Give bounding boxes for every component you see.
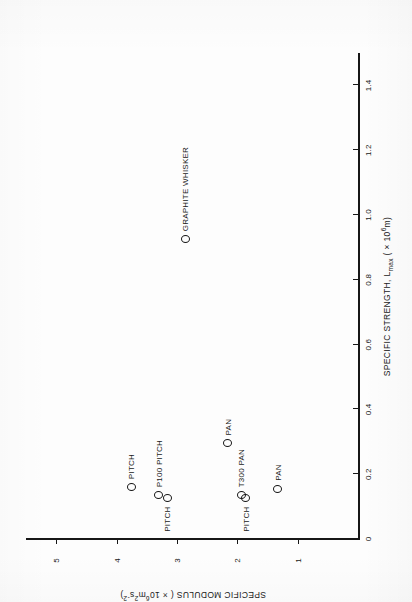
figure-root: 00.20.40.60.81.01.21.4 12345 PITCHP100 P… <box>0 0 412 602</box>
data-point-label: GRAPHITE WHISKER <box>181 147 190 231</box>
x-tick-label: 0.6 <box>364 339 373 351</box>
y-axis-unit-exponent-3: -2 <box>123 595 129 602</box>
data-point-label: PITCH <box>163 507 172 532</box>
x-tick-label: 0.4 <box>364 404 373 416</box>
x-tick-label: 0.2 <box>364 468 373 480</box>
x-tick-mark <box>353 214 358 215</box>
y-axis-unit-exponent-2: 2 <box>134 595 138 602</box>
data-point-marker[interactable] <box>127 483 136 491</box>
data-point-marker[interactable] <box>154 491 163 499</box>
x-axis-title-subscript: max <box>387 258 394 271</box>
x-tick-label: 1.0 <box>364 209 373 221</box>
x-axis-unit-exponent: 6 <box>380 227 387 231</box>
x-axis-unit-prefix: ( × 10 <box>382 231 392 258</box>
x-axis-title-text: SPECIFIC STRENGTH, L <box>382 271 392 376</box>
data-point-label: T300 PAN <box>237 449 246 487</box>
y-tick-mark <box>237 539 238 544</box>
data-point-marker[interactable] <box>241 495 250 503</box>
y-tick-label: 4 <box>112 558 121 563</box>
x-tick-mark <box>353 344 358 345</box>
x-tick-mark <box>353 473 358 474</box>
plot-area: 00.20.40.60.81.01.21.4 12345 PITCHP100 P… <box>0 0 412 602</box>
x-tick-label: 1.4 <box>364 80 373 92</box>
y-tick-mark <box>177 539 178 544</box>
y-tick-label: 1 <box>293 558 302 563</box>
x-axis-unit-suffix: m) <box>382 217 392 228</box>
x-tick-label: 0.8 <box>364 274 373 286</box>
y-tick-mark <box>298 539 299 544</box>
x-tick-mark <box>353 279 358 280</box>
y-axis-line <box>26 538 360 540</box>
y-axis-unit-mid: m <box>138 590 145 600</box>
data-point-marker[interactable] <box>163 495 172 503</box>
y-tick-mark <box>56 539 57 544</box>
data-point-marker[interactable] <box>223 439 232 447</box>
x-axis-line <box>358 53 360 540</box>
y-tick-label: 2 <box>233 558 242 563</box>
y-axis-unit-suffix: ) <box>120 590 123 600</box>
y-tick-label: 3 <box>172 558 181 563</box>
data-point-label: PITCH <box>241 507 250 532</box>
y-tick-mark <box>117 539 118 544</box>
y-axis-unit-mid-2: s <box>130 590 135 600</box>
x-tick-mark <box>353 408 358 409</box>
x-axis-title: SPECIFIC STRENGTH, Lmax ( × 106m) <box>380 53 394 540</box>
data-point-marker[interactable] <box>273 485 282 493</box>
y-axis-title: SPECIFIC MODULUS ( × 106m2s-2) <box>26 590 360 602</box>
x-tick-label: 1.2 <box>364 144 373 156</box>
x-tick-mark <box>353 84 358 85</box>
data-point-label: PITCH <box>127 454 136 479</box>
x-tick-label: 0 <box>364 537 373 542</box>
data-point-label: P100 PITCH <box>154 440 163 487</box>
data-point-label: PAN <box>223 419 232 436</box>
y-tick-label: 5 <box>52 558 61 563</box>
y-axis-unit-exponent: 6 <box>146 595 150 602</box>
x-tick-mark <box>353 149 358 150</box>
x-tick-mark <box>353 538 358 539</box>
data-point-marker[interactable] <box>181 235 190 243</box>
data-point-label: PAN <box>273 464 282 481</box>
y-axis-title-text: SPECIFIC MODULUS ( × 10 <box>150 590 266 600</box>
